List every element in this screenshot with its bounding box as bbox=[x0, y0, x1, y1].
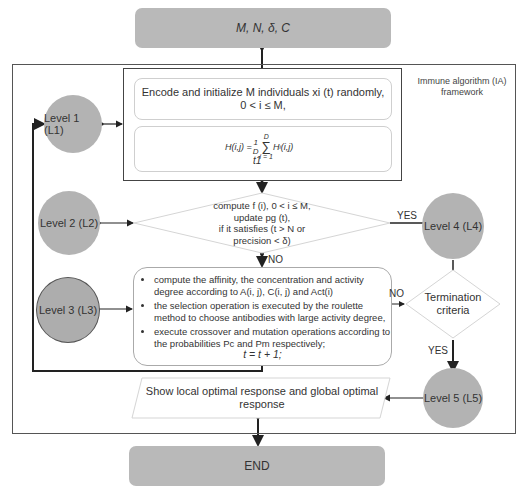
formula-sum-bottom: i = 1 bbox=[260, 153, 273, 161]
output-text: Show local optimal response and global o… bbox=[140, 385, 384, 411]
formula-rhs-args: (i,j) bbox=[281, 142, 294, 152]
start-label: M, N, δ, C bbox=[236, 21, 290, 35]
termination-line1: Termination bbox=[413, 291, 493, 304]
edge-label-yes: YES bbox=[397, 210, 417, 221]
formula-tail: t1 bbox=[253, 155, 261, 166]
framework-caption: Immune algorithm (IA) framework bbox=[412, 76, 512, 98]
edge-label-yes-bottom: YES bbox=[428, 345, 448, 356]
decision-line2: update pg (t), bbox=[190, 212, 334, 224]
termination-line2: criteria bbox=[413, 304, 493, 317]
end-label: END bbox=[244, 459, 269, 473]
process-bullet: the selection operation is executed by t… bbox=[154, 300, 392, 324]
output-line2: response bbox=[140, 398, 384, 411]
level-4-label: Level 4 (L4) bbox=[424, 220, 482, 232]
edge-label-no: NO bbox=[268, 254, 283, 265]
edge-label-no-right: NO bbox=[389, 288, 404, 299]
init-line2: 0 < i ≤ M, bbox=[135, 99, 391, 112]
framework-caption-line1: Immune algorithm (IA) bbox=[412, 76, 512, 87]
init-box: Encode and initialize M individuals xi (… bbox=[134, 78, 392, 120]
level-2-label: Level 2 (L2) bbox=[40, 217, 98, 229]
output-line1: Show local optimal response and global o… bbox=[140, 385, 384, 398]
level-4-node: Level 4 (L4) bbox=[422, 193, 484, 259]
level-2-node: Level 2 (L2) bbox=[38, 191, 100, 255]
decision-text: compute f (i), 0 < i ≤ M, update pg (t),… bbox=[190, 200, 334, 246]
level-3-node: Level 3 (L3) bbox=[36, 277, 100, 343]
start-node: M, N, δ, C bbox=[135, 8, 391, 48]
formula-lhs: H(i,j) = bbox=[225, 142, 252, 152]
formula-box: H(i,j) = 1 D D ∑ i = 1 Hi(i,j) t1 bbox=[134, 126, 392, 172]
decision-line1: compute f (i), 0 < i ≤ M, bbox=[190, 200, 334, 212]
process-bullet: execute crossover and mutation operation… bbox=[154, 326, 392, 350]
process-box: compute the affinity, the concentration … bbox=[133, 267, 392, 366]
decision-line3: if it satisfies (t > N or bbox=[190, 223, 334, 235]
level-5-node: Level 5 (L5) bbox=[423, 368, 483, 428]
sum-symbol-icon: ∑ bbox=[262, 141, 271, 153]
termination-text: Termination criteria bbox=[413, 291, 493, 317]
decision-line4: precision < δ) bbox=[190, 235, 334, 247]
framework-caption-line2: framework bbox=[412, 87, 512, 98]
level-1-label: Level 1 (L1) bbox=[44, 112, 102, 136]
end-node: END bbox=[129, 446, 385, 486]
init-line1: Encode and initialize M individuals xi (… bbox=[135, 86, 391, 99]
level-1-node: Level 1 (L1) bbox=[44, 95, 102, 153]
process-bullet: compute the affinity, the concentration … bbox=[154, 274, 392, 298]
level-3-label: Level 3 (L3) bbox=[39, 304, 97, 316]
level-5-label: Level 5 (L5) bbox=[424, 392, 482, 404]
process-update: t = t + 1; bbox=[134, 348, 391, 360]
formula-frac-num: 1 bbox=[253, 138, 257, 147]
